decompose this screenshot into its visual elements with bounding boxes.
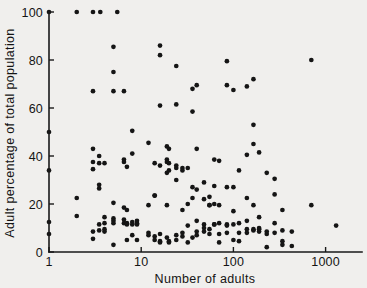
data-point (102, 221, 107, 226)
data-point (125, 222, 130, 227)
data-point (130, 222, 135, 227)
data-point (135, 238, 140, 243)
data-point (194, 233, 199, 238)
data-point (111, 89, 116, 94)
data-point (202, 197, 207, 202)
data-point (272, 221, 277, 226)
y-axis-title: Adult percentage of total population (3, 28, 17, 237)
data-point (280, 228, 285, 233)
data-point (194, 83, 199, 88)
data-point (174, 166, 179, 171)
data-point (102, 161, 107, 166)
y-tick-label: 80 (29, 54, 43, 68)
data-point (158, 163, 163, 168)
data-point (91, 229, 96, 234)
data-point (264, 245, 269, 250)
data-point (237, 168, 242, 173)
data-point (174, 178, 179, 183)
data-point (225, 59, 230, 64)
data-point (98, 10, 103, 15)
data-point (194, 218, 199, 223)
data-point (185, 166, 190, 171)
data-point (217, 221, 222, 226)
y-tick-label: 100 (22, 6, 43, 20)
data-point (167, 168, 172, 173)
data-point (245, 84, 250, 89)
data-point (165, 203, 170, 208)
data-point (130, 128, 135, 133)
data-point (125, 164, 130, 169)
scatter-plot-figure: 020406080100 1101001000 Number of adults… (0, 0, 367, 288)
x-tick-label: 10 (134, 255, 148, 269)
data-point (167, 146, 172, 151)
data-point (146, 140, 151, 145)
data-point (225, 223, 230, 228)
data-point (231, 88, 236, 93)
data-point (251, 122, 256, 127)
data-point (167, 240, 172, 245)
x-tick-label: 1000 (311, 255, 340, 269)
data-point (212, 184, 217, 189)
data-point (289, 229, 294, 234)
data-point (272, 192, 277, 197)
data-point (207, 227, 212, 232)
data-point (146, 203, 151, 208)
data-point (280, 208, 285, 213)
data-point (251, 77, 256, 82)
figure-background (0, 0, 367, 288)
data-point (257, 229, 262, 234)
data-point (202, 229, 207, 234)
data-point (245, 218, 250, 223)
x-tick-label: 1 (45, 255, 52, 269)
data-point (91, 89, 96, 94)
data-point (207, 194, 212, 199)
data-point (309, 58, 314, 63)
data-point (158, 103, 163, 108)
data-point (237, 230, 242, 235)
data-point (122, 160, 127, 165)
data-point (217, 240, 222, 245)
data-point (225, 230, 230, 235)
data-point (174, 64, 179, 69)
data-point (237, 239, 242, 244)
data-point (251, 228, 256, 233)
data-point (167, 161, 172, 166)
data-point (174, 233, 179, 238)
data-point (180, 168, 185, 173)
data-point (130, 233, 135, 238)
data-point (207, 203, 212, 208)
data-point (257, 150, 262, 155)
data-point (237, 221, 242, 226)
data-point (180, 208, 185, 213)
data-point (152, 238, 157, 243)
data-point (207, 232, 212, 237)
data-point (212, 157, 217, 162)
data-point (217, 158, 222, 163)
y-tick-label: 0 (36, 246, 43, 260)
data-point (97, 228, 102, 233)
data-point (91, 10, 96, 15)
data-point (125, 238, 130, 243)
data-point (146, 233, 151, 238)
data-point (174, 102, 179, 107)
data-point (135, 222, 140, 227)
data-point (217, 203, 222, 208)
data-point (309, 203, 314, 208)
data-point (91, 146, 96, 151)
data-point (111, 242, 116, 247)
data-point (225, 83, 230, 88)
data-point (74, 10, 79, 15)
data-point (194, 187, 199, 192)
data-point (245, 230, 250, 235)
data-point (190, 196, 195, 201)
data-point (190, 86, 195, 91)
data-point (231, 209, 236, 214)
data-point (91, 236, 96, 241)
data-point (122, 89, 127, 94)
data-point (97, 222, 102, 227)
data-point (280, 242, 285, 247)
data-point (245, 152, 250, 157)
data-point (190, 235, 195, 240)
data-point (185, 240, 190, 245)
data-point (272, 230, 277, 235)
